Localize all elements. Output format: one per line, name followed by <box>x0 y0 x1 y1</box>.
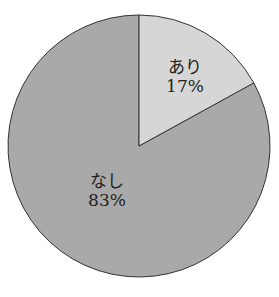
label-ari: あり 17% <box>160 58 210 96</box>
label-nashi-name: なし <box>82 172 132 191</box>
label-nashi-pct: 83% <box>82 191 132 210</box>
label-nashi: なし 83% <box>82 172 132 210</box>
label-ari-name: あり <box>160 58 210 77</box>
label-ari-pct: 17% <box>160 77 210 96</box>
pie-chart <box>0 0 279 297</box>
